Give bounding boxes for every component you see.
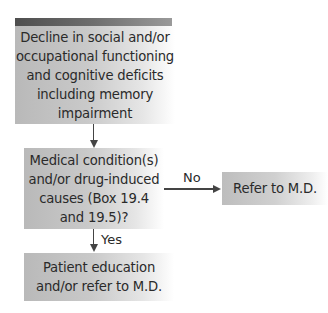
node-text-line: Decline in social and/or — [16, 28, 174, 47]
node-text-line: and cognitive deficits — [16, 66, 174, 85]
node-text-line: and 19.5)? — [29, 208, 160, 227]
connector-line — [93, 229, 95, 245]
node-text-line: Refer to M.D. — [233, 179, 317, 198]
node-text-line: Medical condition(s) — [29, 151, 160, 170]
node-text-line: including memory — [16, 85, 174, 104]
node-text-line: and/or refer to M.D. — [36, 277, 162, 296]
node-text-line: impairment — [16, 104, 174, 123]
arrow-down-icon — [90, 244, 98, 252]
node-text-line: and/or drug-induced — [29, 170, 160, 189]
node-decline-symptoms: Decline in social and/or occupational fu… — [15, 26, 175, 124]
node-text-line: occupational functioning — [16, 47, 174, 66]
node-refer-md: Refer to M.D. — [222, 172, 328, 205]
header-bar — [15, 18, 172, 26]
edge-label-yes: Yes — [101, 232, 122, 247]
node-text-line: Patient education — [36, 258, 162, 277]
connector-line — [164, 188, 214, 190]
node-patient-education: Patient education and/or refer to M.D. — [24, 253, 174, 301]
arrow-down-icon — [90, 140, 98, 148]
edge-label-no: No — [183, 170, 201, 185]
arrow-right-icon — [213, 185, 221, 193]
connector-line — [93, 124, 95, 141]
node-text-line: causes (Box 19.4 — [29, 189, 160, 208]
node-decision-medical-causes: Medical condition(s) and/or drug-induced… — [24, 148, 164, 229]
